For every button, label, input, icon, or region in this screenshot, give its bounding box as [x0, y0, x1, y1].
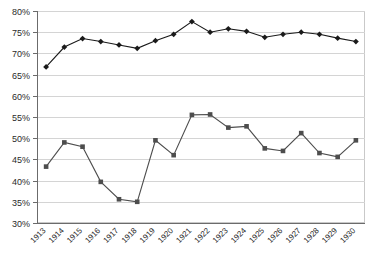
- data-point-marker: [117, 197, 122, 202]
- data-point-marker: [98, 180, 103, 185]
- data-point-marker: [262, 146, 267, 151]
- data-point-marker: [335, 155, 340, 160]
- data-point-marker: [244, 124, 249, 129]
- data-point-marker: [226, 125, 231, 130]
- y-tick-label: 70%: [12, 49, 30, 59]
- y-tick-label: 75%: [12, 28, 30, 38]
- data-point-marker: [171, 153, 176, 158]
- data-point-marker: [317, 151, 322, 156]
- data-point-marker: [80, 144, 85, 149]
- y-tick-label: 80%: [12, 7, 30, 17]
- data-point-marker: [190, 113, 195, 118]
- y-tick-label: 50%: [12, 134, 30, 144]
- data-point-marker: [153, 138, 158, 143]
- data-point-marker: [281, 149, 286, 154]
- y-tick-label: 60%: [12, 92, 30, 102]
- data-point-marker: [299, 131, 304, 136]
- data-point-marker: [354, 138, 359, 143]
- data-point-marker: [62, 140, 67, 145]
- line-chart: 30%35%40%45%50%55%60%65%70%75%80% 191319…: [0, 0, 369, 260]
- y-tick-label: 30%: [12, 219, 30, 229]
- y-tick-label: 65%: [12, 71, 30, 81]
- data-point-marker: [135, 200, 140, 205]
- data-point-marker: [208, 112, 213, 117]
- data-point-marker: [44, 164, 49, 169]
- chart-container: 30%35%40%45%50%55%60%65%70%75%80% 191319…: [0, 0, 369, 260]
- y-tick-label: 35%: [12, 198, 30, 208]
- y-tick-label: 55%: [12, 113, 30, 123]
- y-tick-label: 40%: [12, 177, 30, 187]
- y-tick-label: 45%: [12, 155, 30, 165]
